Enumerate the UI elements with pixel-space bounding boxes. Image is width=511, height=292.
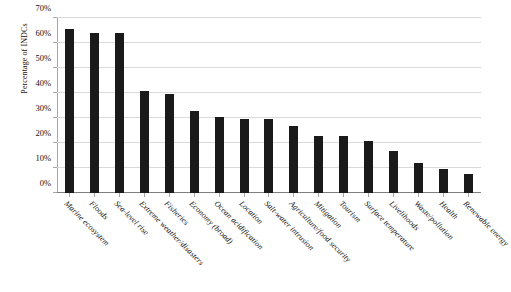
x-tick-mark — [219, 193, 220, 197]
bar-slot — [356, 18, 381, 193]
y-tick-label: 20% — [35, 128, 57, 138]
bar-slot — [306, 18, 331, 193]
x-label-slot: Renewable energy — [456, 198, 481, 290]
y-tick-label: 0% — [40, 178, 57, 188]
bar[interactable] — [414, 163, 423, 193]
x-tick-mark — [368, 193, 369, 197]
bar-slot — [207, 18, 232, 193]
bar[interactable] — [165, 94, 174, 193]
x-tick-mark — [268, 193, 269, 197]
x-label-slot: Agriculture/food security — [281, 198, 306, 290]
bar-slot — [406, 18, 431, 193]
bar-slot — [456, 18, 481, 193]
x-tick-mark — [69, 193, 70, 197]
x-label-slot: Location — [232, 198, 257, 290]
bar[interactable] — [115, 33, 124, 193]
bar-slot — [157, 18, 182, 193]
x-tick-mark — [144, 193, 145, 197]
y-tick-label: 60% — [35, 28, 57, 38]
x-tick-mark — [468, 193, 469, 197]
x-tick-mark — [393, 193, 394, 197]
bar[interactable] — [439, 169, 448, 193]
bar-slot — [107, 18, 132, 193]
x-label-slot: Ocean acidification — [207, 198, 232, 290]
bar-slot — [431, 18, 456, 193]
bar[interactable] — [314, 136, 323, 194]
bar-slot — [257, 18, 282, 193]
bar-slot — [82, 18, 107, 193]
x-tick-mark — [443, 193, 444, 197]
bar-slot — [381, 18, 406, 193]
bar[interactable] — [339, 136, 348, 194]
bar-slot — [331, 18, 356, 193]
x-tick-mark — [343, 193, 344, 197]
x-label-slot: Sea-level rise — [107, 198, 132, 290]
bar[interactable] — [364, 141, 373, 194]
bar[interactable] — [289, 126, 298, 194]
bar-series — [57, 18, 481, 193]
x-tick-mark — [244, 193, 245, 197]
x-label-slot: Waste/pollution — [406, 198, 431, 290]
x-tick-mark — [418, 193, 419, 197]
x-tick-mark — [318, 193, 319, 197]
x-tick-label: Renewable energy — [462, 199, 511, 248]
y-tick-label: 70% — [35, 3, 57, 13]
y-tick-label: 40% — [35, 78, 57, 88]
x-tick-mark — [293, 193, 294, 197]
x-label-slot: Floods — [82, 198, 107, 290]
bar-slot — [182, 18, 207, 193]
x-label-slot: Mitigation — [306, 198, 331, 290]
bar[interactable] — [190, 111, 199, 194]
x-label-slot: Marine ecosystem — [57, 198, 82, 290]
x-tick-mark — [169, 193, 170, 197]
x-label-slot: Fisheries — [157, 198, 182, 290]
bar[interactable] — [140, 91, 149, 194]
plot-area: 0%10%20%30%40%50%60%70% — [57, 18, 481, 193]
x-label-slot: Extreme weather/disasters — [132, 198, 157, 290]
x-label-slot: Health — [431, 198, 456, 290]
y-tick-label: 50% — [35, 53, 57, 63]
x-label-slot: Economy (broad) — [182, 198, 207, 290]
bar[interactable] — [464, 174, 473, 193]
x-label-slot: Tourism — [331, 198, 356, 290]
y-axis-title: Percentage of INDCs — [20, 0, 29, 129]
bar[interactable] — [65, 29, 74, 193]
bar-slot — [232, 18, 257, 193]
x-label-slot: Salt-water intrusion — [257, 198, 282, 290]
bar-slot — [57, 18, 82, 193]
x-axis-labels: Marine ecosystemFloodsSea-level riseExtr… — [57, 198, 481, 290]
y-tick-label: 30% — [35, 103, 57, 113]
x-tick-mark — [94, 193, 95, 197]
bar[interactable] — [240, 119, 249, 193]
bar[interactable] — [90, 33, 99, 193]
x-label-slot: Surface temperature — [356, 198, 381, 290]
x-label-slot: Livelihoods — [381, 198, 406, 290]
bar-slot — [281, 18, 306, 193]
bar[interactable] — [215, 117, 224, 193]
bar-slot — [132, 18, 157, 193]
bar[interactable] — [389, 151, 398, 194]
x-tick-mark — [194, 193, 195, 197]
y-tick-label: 10% — [35, 153, 57, 163]
x-tick-mark — [119, 193, 120, 197]
bar[interactable] — [264, 119, 273, 193]
